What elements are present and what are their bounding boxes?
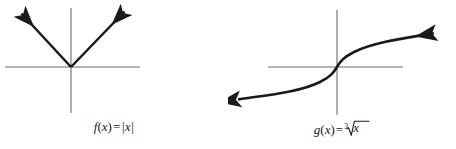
v-left-branch — [22, 14, 72, 68]
radical-index: 3 — [344, 122, 348, 131]
cube-root-radical: 3x — [344, 120, 370, 136]
caption-absolute-value: f(x)=|x| — [0, 120, 228, 133]
panel-cube-root: g(x)=3x — [228, 0, 456, 149]
panel-absolute-value: f(x)=|x| — [0, 0, 228, 149]
caption-cube-root: g(x)=3x — [228, 120, 456, 136]
v-right-branch — [71, 12, 125, 68]
caption-equals-sign: = — [112, 119, 121, 134]
caption-expression: |x| — [121, 119, 134, 134]
math-figure-canvas: f(x)=|x| g(x)=3x — [0, 0, 456, 149]
caption-equals-sign: = — [335, 122, 344, 137]
cube-root-curve — [238, 33, 434, 99]
radicand: x — [353, 121, 359, 134]
